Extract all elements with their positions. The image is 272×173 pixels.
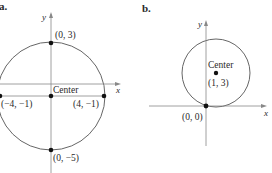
panel-a-y-label: y [41, 12, 46, 22]
panel-b-center-coords: (1, 3) [208, 78, 229, 89]
panel-a-point-left [0, 94, 2, 99]
panel-b-point-origin [204, 104, 209, 109]
panel-b: b. y x Center (1, 3) (0, 0) [142, 2, 268, 146]
panel-a-point-right [102, 94, 107, 99]
panel-a: a. y x (0, 3) Center (−4, −1) (4, −1) (0… [0, 0, 121, 173]
panel-a-label-left: (−4, −1) [1, 99, 32, 110]
panel-b-y-label: y [197, 19, 202, 29]
panel-a-label: a. [0, 0, 8, 12]
panel-b-label: b. [142, 2, 151, 14]
panel-b-label-origin: (0, 0) [182, 112, 203, 123]
panel-a-y-arrow-icon [49, 12, 53, 18]
panel-a-label-bottom: (0, −5) [53, 153, 79, 164]
panel-b-point-center [214, 71, 218, 75]
panel-a-center-label: Center [53, 85, 79, 95]
figure-canvas: a. y x (0, 3) Center (−4, −1) (4, −1) (0… [0, 0, 272, 173]
panel-a-x-label: x [115, 85, 120, 95]
panel-a-point-top [49, 41, 54, 46]
panel-b-center-label: Center [208, 60, 234, 70]
panel-a-point-bottom [49, 148, 54, 153]
panel-b-y-arrow-icon [204, 20, 208, 26]
panel-b-x-label: x [263, 108, 268, 118]
panel-a-label-right: (4, −1) [73, 99, 99, 110]
panel-a-label-top: (0, 3) [55, 30, 76, 41]
